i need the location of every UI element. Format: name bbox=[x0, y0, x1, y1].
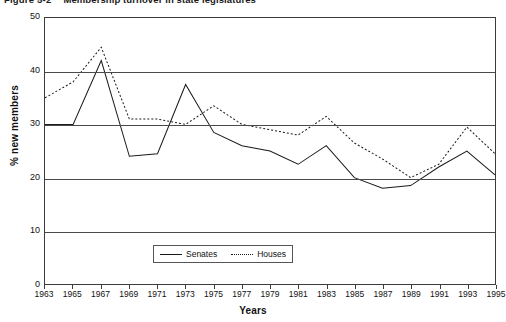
legend-label: Senates bbox=[186, 249, 217, 259]
figure-container: Figure 5-2Membership turnover in state l… bbox=[0, 0, 506, 322]
y-tick-label-0: 0 bbox=[4, 279, 40, 289]
y-axis-title: % new members bbox=[9, 66, 20, 186]
legend-entry-houses: Houses bbox=[231, 249, 286, 259]
gridline-30 bbox=[45, 125, 495, 126]
x-tick-label-1995: 1995 bbox=[476, 289, 506, 299]
gridline-40 bbox=[45, 72, 495, 73]
x-axis-title: Years bbox=[0, 305, 506, 316]
y-tick-label-50: 50 bbox=[4, 11, 40, 21]
series-line-houses bbox=[45, 47, 495, 177]
legend-swatch-solid-icon bbox=[160, 254, 182, 255]
gridline-20 bbox=[45, 179, 495, 180]
figure-caption: Figure 5-2Membership turnover in state l… bbox=[4, 0, 502, 7]
y-tick-label-10: 10 bbox=[4, 225, 40, 235]
legend-label: Houses bbox=[257, 249, 286, 259]
y-axis-tick-labels: 01020304050 bbox=[0, 17, 40, 285]
legend-entry-senates: Senates bbox=[160, 249, 217, 259]
x-axis-tick-labels: 1963196519671969197119731975197719791981… bbox=[44, 289, 496, 303]
chart-legend: SenatesHouses bbox=[153, 245, 293, 263]
figure-title: Membership turnover in state legislature… bbox=[63, 0, 256, 5]
gridline-10 bbox=[45, 232, 495, 233]
figure-number: Figure 5-2 bbox=[4, 0, 51, 5]
legend-swatch-dotted-icon bbox=[231, 254, 253, 255]
